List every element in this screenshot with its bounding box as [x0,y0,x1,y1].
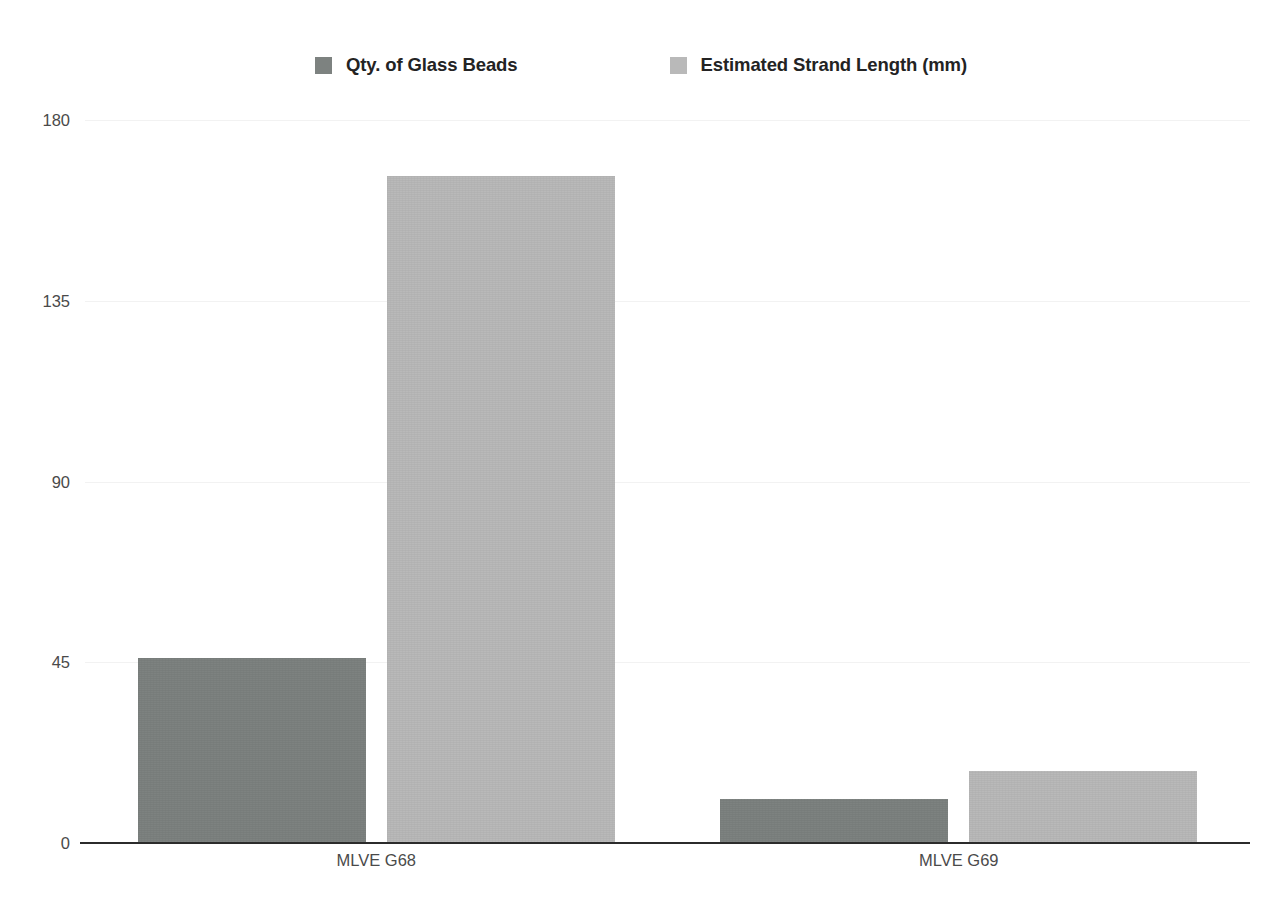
bar-texture [969,771,1197,843]
bar-mlve-g69-qty-of-glass-beads[interactable] [720,799,948,843]
legend-label-qty-of-glass-beads: Qty. of Glass Beads [346,54,518,76]
bar-mlve-g68-estimated-strand-length[interactable] [387,176,615,843]
legend-swatch-estimated-strand-length [670,57,687,74]
gridline-90 [85,482,1250,483]
legend-swatch-qty-of-glass-beads [315,57,332,74]
bar-mlve-g69-estimated-strand-length[interactable] [969,771,1197,843]
y-axis-tick-180: 180 [10,112,70,129]
chart-legend: Qty. of Glass Beads Estimated Strand Len… [0,48,1282,82]
gridline-135 [85,301,1250,302]
bar-mlve-g68-qty-of-glass-beads[interactable] [138,658,366,843]
gridline-180 [85,120,1250,121]
legend-label-estimated-strand-length: Estimated Strand Length (mm) [701,54,968,76]
x-axis-label-mlve-g69: MLVE G69 [668,851,1251,870]
legend-item-qty-of-glass-beads[interactable]: Qty. of Glass Beads [315,48,518,82]
bar-chart: Qty. of Glass Beads Estimated Strand Len… [0,0,1282,920]
y-axis-tick-45: 45 [10,654,70,671]
y-axis-tick-90: 90 [10,474,70,491]
x-axis-category-labels: MLVE G68 MLVE G69 [85,851,1250,881]
bar-texture [387,176,615,843]
y-axis-tick-0: 0 [10,835,70,852]
x-axis-label-mlve-g68: MLVE G68 [85,851,668,870]
bar-texture [138,658,366,843]
bar-texture [720,799,948,843]
legend-item-estimated-strand-length[interactable]: Estimated Strand Length (mm) [670,48,968,82]
plot-area [85,120,1250,843]
y-axis-tick-labels: 180 135 90 45 0 [0,120,70,843]
x-axis-line [80,842,1250,844]
y-axis-tick-135: 135 [10,293,70,310]
